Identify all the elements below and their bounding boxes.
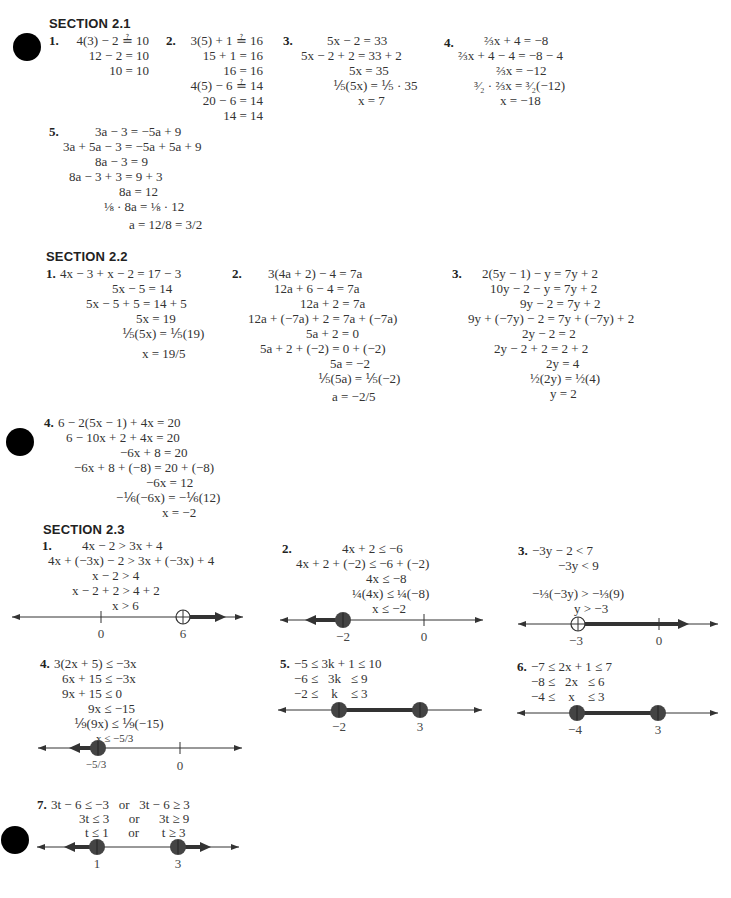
tick-label: −2 — [336, 629, 350, 645]
step: 10 = 10 — [109, 63, 149, 78]
problem-2-1-3: 3. 5x − 2 = 33 5x − 2 + 2 = 33 + 2 5x = … — [283, 33, 443, 113]
tick-label: 0 — [177, 758, 184, 774]
problem-2-2-1: 1. 4x − 3 + x − 2 = 17 − 3 5x − 5 = 14 5… — [46, 266, 226, 366]
binder-hole-middle — [6, 428, 34, 456]
tick-label: 3 — [175, 856, 182, 872]
section-title-2-3: SECTION 2.3 — [43, 522, 125, 537]
step: 12 − 2 = 10 — [89, 48, 149, 63]
problem-2-1-1: 1. 4(3) − 2 ≟ 10 12 − 2 = 10 10 = 10 — [49, 33, 159, 83]
tick-label: 0 — [656, 633, 663, 649]
tick-label: 0 — [98, 626, 105, 642]
binder-hole-top — [13, 33, 41, 61]
problem-2-2-4: 4. 6 − 2(5x − 1) + 4x = 20 6 − 10x + 2 +… — [44, 415, 264, 525]
tick-label: −5/3 — [86, 758, 106, 770]
problem-2-2-3: 3. 2(5y − 1) − y = 7y + 2 10y − 2 − y = … — [452, 266, 692, 396]
problem-2-1-2: 2. 3(5) + 1 ≟ 16 15 + 1 = 16 16 = 16 4(5… — [166, 33, 263, 128]
problem-2-2-2: 2. 3(4a + 2) − 4 = 7a 12a + 6 − 4 = 7a 1… — [232, 266, 442, 406]
tick-label: −2 — [332, 719, 346, 735]
section-title-2-1: SECTION 2.1 — [49, 16, 131, 31]
tick-label: 1 — [94, 856, 101, 872]
problem-2-3-1: 1. 4x − 2 > 3x + 4 4x + (−3x) − 2 > 3x +… — [42, 538, 262, 618]
tick-label: 3 — [417, 719, 424, 735]
tick-label: −4 — [568, 722, 582, 738]
problem-2-3-6: 6. −7 ≤ 2x + 1 ≤ 7 −8 ≤ 2x ≤ 6 −4 ≤ x ≤ … — [517, 659, 677, 709]
problem-2-3-2: 2. 4x + 2 ≤ −6 4x + 2 + (−2) ≤ −6 + (−2)… — [282, 541, 482, 621]
problem-2-3-7: 7. 3t − 6 ≤ −3 or 3t − 6 ≥ 3 3t ≤ 3 or 3… — [37, 797, 237, 847]
tick-label: 3 — [655, 722, 662, 738]
section-title-2-2: SECTION 2.2 — [46, 249, 128, 264]
tick-label: 0 — [421, 629, 428, 645]
step: 4(3) − 2 ≟ 10 — [77, 33, 150, 48]
problem-2-1-4: 4. ⅔x + 4 = −8 ⅔x + 4 − 4 = −8 − 4 ⅔x = … — [444, 33, 614, 113]
problem-2-1-5: 5. 3a − 3 = −5a + 9 3a + 5a − 3 = −5a + … — [49, 124, 269, 239]
tick-label: −3 — [569, 633, 583, 649]
problem-2-3-5: 5. −5 ≤ 3k + 1 ≤ 10 −6 ≤ 3k ≤ 9 −2 ≤ k ≤… — [280, 656, 440, 706]
binder-hole-bottom — [1, 826, 29, 854]
problem-2-3-3: 3. −3y − 2 < 7 −3y < 9 −⅓(−3y) > −⅓(9) y… — [518, 543, 718, 623]
tick-label: 6 — [180, 626, 187, 642]
problem-2-3-4: 4. 3(2x + 5) ≤ −3x 6x + 15 ≤ −3x 9x + 15… — [40, 656, 240, 751]
